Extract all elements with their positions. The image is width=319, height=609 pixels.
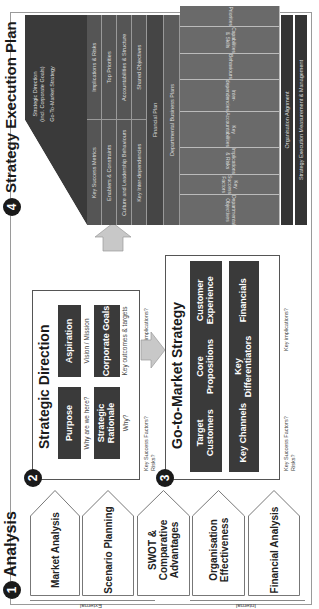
departments-columns: Departmental Objectives Key Success Fact…	[180, 15, 280, 225]
dept-label: Behaviours	[227, 54, 233, 79]
roof-text: Strategic Direction (incl. Corporate Goa…	[32, 19, 56, 169]
department-capabilities-skills: Capabilities & Skills	[180, 26, 280, 53]
target-customers: Target Customers	[196, 403, 216, 463]
department-key-accountabilities: Key Accountabilities	[180, 111, 280, 147]
departmental-business-plans-row: Departmental Business Plans	[164, 15, 180, 225]
internal-bracket	[190, 600, 305, 601]
purpose-note: Why are we here?	[83, 387, 90, 459]
top-priorities: Top Priorities	[102, 15, 116, 120]
corporate-goals-note: Key outcomes & targets	[121, 305, 128, 377]
gtm-key-success-factors-note: Key Success Factors? Risks?	[283, 411, 296, 471]
dept-label: Inter-dependencies	[224, 80, 236, 111]
badge-number: 4	[5, 204, 19, 211]
organisation-alignment-bar: Organisation Alignment	[281, 15, 293, 225]
section-number-badge: 1	[3, 581, 21, 599]
department-behaviours: Behaviours	[180, 53, 280, 79]
pentagon-label: Market Analysis	[50, 498, 61, 588]
pentagon-label: Organisation Effectiveness	[208, 499, 230, 587]
section-number-badge: 2	[24, 469, 42, 487]
badge-number: 2	[26, 475, 40, 482]
key-success-metrics: Key Success Metrics	[87, 120, 101, 226]
split-row: Culture and Leadership Behaviours Accoun…	[117, 15, 132, 225]
external-bracket	[30, 600, 155, 601]
analysis-title: Analysis	[2, 511, 20, 577]
culture-leadership-behaviours: Culture and Leadership Behaviours	[117, 120, 131, 226]
dept-label: Implications & Risks	[224, 148, 236, 174]
aspiration-box: Aspiration	[58, 305, 81, 377]
right-arrow-icon	[93, 222, 133, 252]
key-inter-dependencies: Key Inter-dependencies	[132, 120, 146, 226]
key-differentiators: Key Differentiators	[234, 336, 254, 398]
key-channels: Key Channels	[239, 402, 249, 464]
department-key-success-factors: Key Success Factors	[180, 174, 280, 194]
strategic-direction-title: Strategic Direction	[36, 325, 52, 449]
pentagon-label: Scenario Planning	[103, 492, 114, 593]
roof-line-2: (incl. Corporate Goals)	[39, 19, 46, 169]
roof-line-3: Go-To-Market Strategy	[49, 19, 56, 169]
measurement-management-bar: Strategy Execution Measurement & Managem…	[295, 15, 307, 225]
execution-plan-title: Strategy Execution Plan	[2, 21, 19, 193]
analysis-item-market-analysis: Market Analysis	[30, 490, 80, 596]
down-arrow-icon	[140, 330, 166, 370]
shared-objectives: Shared Objectives	[132, 15, 146, 120]
aspiration-note: Vision / Mission	[83, 305, 90, 377]
strategic-rationale-box: Strategic Rationale	[94, 387, 120, 459]
internal-label: Internal	[236, 603, 256, 609]
strategic-rationale-note: Why?	[122, 387, 129, 459]
department-priorities: Priorities	[180, 6, 280, 25]
corporate-goals-box: Corporate Goals	[94, 305, 120, 377]
roof-line-1: Strategic Direction	[32, 19, 39, 169]
department-objectives: Departmental Objectives	[180, 194, 280, 225]
enablers-constraints: Enablers & Constraints	[102, 120, 116, 226]
analysis-item-scenario-planning: Scenario Planning	[82, 490, 134, 596]
split-row: Key Success Metrics Implications & Risks	[87, 15, 102, 225]
accountabilities-structure: Accountabilities & Structure	[117, 15, 131, 120]
dept-label: Departmental Objectives	[224, 195, 236, 225]
department-inter-dependencies: Inter-dependencies	[180, 79, 280, 111]
implications-risks: Implications & Risks	[87, 15, 101, 120]
pentagon-label: Financial Analysis	[269, 493, 280, 594]
core-propositions: Core Propositions	[196, 337, 216, 397]
external-label: External	[80, 603, 102, 609]
section-number-badge: 4	[3, 198, 21, 216]
gtm-key-implications-note: Key implications?	[283, 291, 290, 351]
dept-label: Key Success Factors	[221, 175, 238, 194]
dept-label: Capabilities & Skills	[224, 27, 236, 53]
key-success-factors-note: Key Success Factors? Risks?	[143, 411, 156, 471]
dept-label: Priorities	[227, 6, 233, 25]
customer-experience: Customer Experience	[196, 270, 216, 330]
strategy-framework-diagram: 1 Analysis External Internal Market Anal…	[0, 0, 319, 609]
gtm-row-2: Key Channels Key Differentiators Financi…	[229, 261, 259, 472]
pentagon-label: SWOT & Comparative Advantages	[147, 501, 180, 585]
financial-plan-row: Financial Plan	[147, 15, 164, 225]
badge-number: 1	[5, 587, 19, 594]
split-row: Enablers & Constraints Top Priorities	[102, 15, 117, 225]
financials: Financials	[239, 269, 249, 331]
execution-split-rows: Key Success Metrics Implications & Risks…	[87, 15, 147, 225]
gtm-row-1: Target Customers Core Propositions Custo…	[190, 261, 222, 472]
department-implications-risks: Implications & Risks	[180, 147, 280, 174]
purpose-box: Purpose	[58, 387, 81, 459]
dept-label: Key Accountabilities	[224, 112, 236, 147]
go-to-market-title: Go-to-Market Strategy	[169, 302, 185, 449]
split-row: Key Inter-dependencies Shared Objectives	[132, 15, 147, 225]
section-number-badge: 3	[156, 469, 174, 487]
badge-number: 3	[158, 475, 172, 482]
analysis-item-swot: SWOT & Comparative Advantages	[137, 490, 190, 596]
analysis-item-financial-analysis: Financial Analysis	[248, 490, 300, 596]
analysis-item-organisation-effectiveness: Organisation Effectiveness	[192, 490, 245, 596]
